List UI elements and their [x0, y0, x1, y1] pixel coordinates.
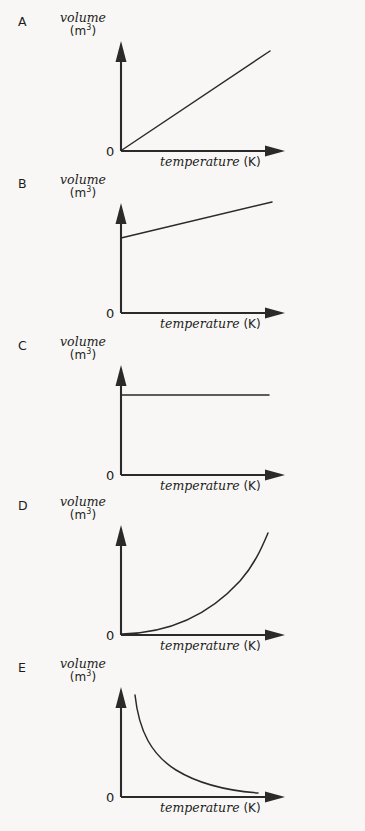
- origin-label-e: 0: [106, 790, 114, 805]
- panel-b: B volume (m3) 0 temperature (K): [0, 176, 365, 336]
- x-axis-label-a: temperature (K): [160, 154, 261, 169]
- data-curve-e: [135, 695, 258, 793]
- y-axis-arrow-c: [116, 365, 127, 386]
- y-axis-arrow-e: [116, 687, 127, 708]
- panel-d: D volume (m3) 0 temperature (K): [0, 498, 365, 658]
- x-axis-name-c: temperature: [160, 478, 240, 493]
- x-axis-label-e: temperature (K): [160, 800, 261, 815]
- x-axis-name-d: temperature: [160, 638, 240, 653]
- panel-e: E volume (m3) 0 temperature (K): [0, 660, 365, 820]
- panel-c: C volume (m3) 0 temperature (K): [0, 338, 365, 498]
- x-axis-unit-c: (K): [240, 479, 261, 493]
- x-axis-arrow-d: [265, 630, 285, 641]
- figure-sheet: A volume (m3) 0 temperature (K) B volume…: [0, 0, 365, 831]
- y-axis-arrow-d: [116, 525, 127, 546]
- x-axis-arrow-c: [265, 470, 285, 481]
- x-axis-unit-e: (K): [240, 801, 261, 815]
- x-axis-unit-d: (K): [240, 639, 261, 653]
- plot-b: [0, 176, 365, 336]
- y-axis-arrow-b: [116, 203, 127, 224]
- x-axis-label-c: temperature (K): [160, 478, 261, 493]
- x-axis-label-b: temperature (K): [160, 316, 261, 331]
- x-axis-name-b: temperature: [160, 316, 240, 331]
- panel-a: A volume (m3) 0 temperature (K): [0, 14, 365, 174]
- data-curve-d: [122, 533, 268, 634]
- x-axis-arrow-a: [265, 146, 285, 157]
- data-curve-a: [122, 51, 270, 150]
- plot-e: [0, 660, 365, 820]
- x-axis-arrow-e: [265, 792, 285, 803]
- x-axis-unit-a: (K): [240, 155, 261, 169]
- x-axis-label-d: temperature (K): [160, 638, 261, 653]
- plot-d: [0, 498, 365, 658]
- plot-a: [0, 14, 365, 174]
- data-curve-b: [121, 202, 272, 238]
- origin-label-d: 0: [106, 628, 114, 643]
- x-axis-arrow-b: [265, 308, 285, 319]
- x-axis-name-a: temperature: [160, 154, 240, 169]
- origin-label-a: 0: [106, 144, 114, 159]
- plot-c: [0, 338, 365, 498]
- x-axis-unit-b: (K): [240, 317, 261, 331]
- origin-label-c: 0: [106, 468, 114, 483]
- y-axis-arrow-a: [116, 41, 127, 62]
- origin-label-b: 0: [106, 306, 114, 321]
- x-axis-name-e: temperature: [160, 800, 240, 815]
